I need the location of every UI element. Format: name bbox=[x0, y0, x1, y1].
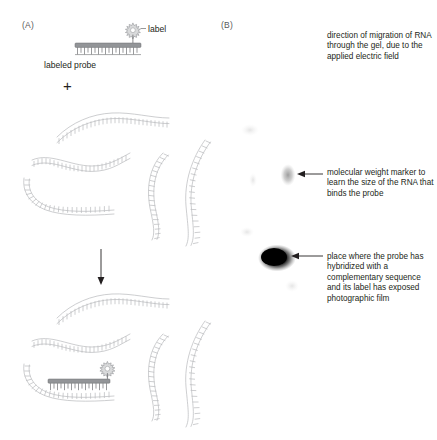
molecular-weight-marker-band bbox=[281, 164, 296, 186]
panel-b-graphics bbox=[0, 0, 437, 440]
film-smudge bbox=[249, 173, 257, 187]
film-smudge bbox=[240, 227, 254, 237]
film-smudge bbox=[241, 124, 259, 136]
figure-northern-blot: (A) label labeled probe + bbox=[0, 0, 437, 440]
marker-callout-arrow-icon bbox=[297, 171, 323, 177]
film-smudge bbox=[285, 280, 299, 292]
hybridized-probe-band-core bbox=[261, 248, 287, 266]
